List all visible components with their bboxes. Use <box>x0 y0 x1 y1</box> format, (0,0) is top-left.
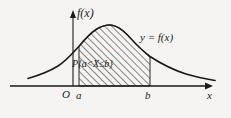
y-axis <box>70 10 76 86</box>
curve-label: y = f(x) <box>140 32 173 43</box>
tick-label-a: a <box>76 90 82 101</box>
shaded-region-label: P{a<X≤b} <box>72 59 113 69</box>
y-axis-label: f(x) <box>77 7 94 19</box>
x-axis-label: x <box>207 90 212 101</box>
tick-label-b: b <box>145 90 151 101</box>
figure-canvas <box>0 0 231 118</box>
probability-density-figure: f(x) y = f(x) P{a<X≤b} O a b x <box>0 0 231 118</box>
origin-label: O <box>62 89 70 100</box>
